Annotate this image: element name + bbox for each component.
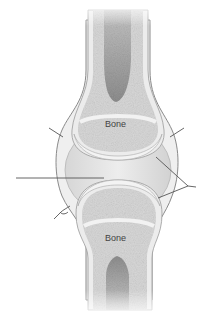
synovial-joint-diagram: Bone Bone (0, 0, 206, 320)
upper-bone-label: Bone (105, 119, 126, 129)
lower-bone-label: Bone (105, 233, 126, 243)
top-fade (60, 0, 180, 26)
bottom-fade (60, 290, 180, 320)
leader-line-right-bracket-tail (188, 186, 196, 187)
